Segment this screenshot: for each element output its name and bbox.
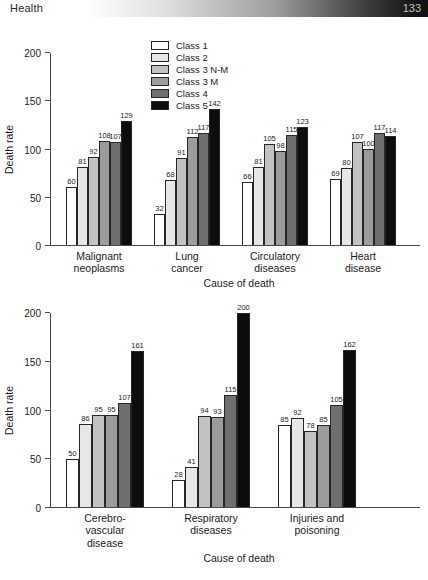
bar-column: 92 <box>88 53 99 245</box>
bar-value-label: 94 <box>200 406 208 416</box>
legend-item: Class 3 M <box>151 75 228 87</box>
chart-body: Death rate 050100150200 50869595107161Ce… <box>0 313 428 508</box>
y-tick-label: 150 <box>24 356 41 367</box>
bar-class-4 <box>118 403 131 507</box>
legend-label: Class 3 N-M <box>176 64 228 75</box>
bar-value-label: 93 <box>213 407 221 417</box>
bar-column: 95 <box>105 313 118 507</box>
legend-swatch <box>151 89 169 98</box>
bar-chart-bottom: Death rate 050100150200 50869595107161Ce… <box>0 313 428 564</box>
bar-column: 107 <box>110 53 121 245</box>
bar-column: 129 <box>121 53 132 245</box>
y-tick-label: 150 <box>24 96 41 107</box>
bar-class-3-m <box>317 425 330 507</box>
x-axis-title: Cause of death <box>0 277 428 289</box>
legend-item: Class 3 N-M <box>151 63 228 75</box>
bar-value-label: 115 <box>225 385 237 395</box>
legend: Class 1Class 2Class 3 N-MClass 3 MClass … <box>151 39 228 111</box>
bar-column: 117 <box>374 53 385 245</box>
header-gradient-bar <box>85 0 428 17</box>
category-label: Injuries and poisoning <box>262 512 372 537</box>
bar-class-4 <box>224 395 237 507</box>
legend-item: Class 4 <box>151 87 228 99</box>
plot-area: 50869595107161Cerebro- vascular disease2… <box>50 313 420 508</box>
bar-class-5 <box>343 350 356 507</box>
bar-column: 85 <box>317 313 330 507</box>
bar-class-1 <box>330 179 341 245</box>
bar-column: 86 <box>79 313 92 507</box>
bar-class-3-m <box>363 149 374 245</box>
bar-column: 108 <box>99 53 110 245</box>
bar-value-label: 114 <box>385 126 397 136</box>
bar-class-3-m <box>275 151 286 245</box>
y-axis-title: Death rate <box>0 313 18 508</box>
bar-value-label: 69 <box>331 169 339 179</box>
bar-class-3-n-m <box>176 158 187 245</box>
bar-column: 81 <box>253 53 264 245</box>
bar-class-3-n-m <box>352 142 363 245</box>
bar-value-label: 95 <box>107 405 115 415</box>
legend-item: Class 1 <box>151 39 228 51</box>
bar-column: 78 <box>304 313 317 507</box>
bar-class-2 <box>165 180 176 245</box>
bar-column: 80 <box>341 53 352 245</box>
bar-value-label: 92 <box>89 147 97 157</box>
bar-column: 81 <box>77 53 88 245</box>
y-tick-label: 200 <box>24 308 41 319</box>
bar-column: 41 <box>185 313 198 507</box>
legend-label: Class 4 <box>176 88 208 99</box>
bar-class-5 <box>237 313 250 507</box>
bar-value-label: 91 <box>177 148 185 158</box>
bar-value-label: 41 <box>187 457 195 467</box>
bar-value-label: 81 <box>254 157 262 167</box>
bar-column: 105 <box>264 53 275 245</box>
bar-class-2 <box>341 168 352 245</box>
bar-column: 123 <box>297 53 308 245</box>
bar-value-label: 66 <box>243 172 251 182</box>
bar-value-label: 100 <box>362 139 375 149</box>
bar-value-label: 117 <box>198 123 210 133</box>
bar-class-3-m <box>187 137 198 245</box>
bar-chart-top: Death rate 050100150200 Class 1Class 2Cl… <box>0 53 428 289</box>
bar-group: 6980107100117114Heart disease <box>330 53 396 245</box>
bar-column: 107 <box>352 53 363 245</box>
bar-class-1 <box>154 214 165 245</box>
bar-value-label: 129 <box>120 111 133 121</box>
legend-label: Class 3 M <box>176 76 218 87</box>
bar-value-label: 200 <box>237 303 250 313</box>
bar-value-label: 105 <box>330 395 343 405</box>
bar-value-label: 78 <box>306 421 314 431</box>
legend-label: Class 1 <box>176 40 208 51</box>
legend-item: Class 2 <box>151 51 228 63</box>
bar-value-label: 80 <box>342 158 350 168</box>
bar-value-label: 162 <box>343 340 356 350</box>
bar-class-2 <box>77 167 88 245</box>
legend-item: Class 5 <box>151 99 228 111</box>
bar-class-5 <box>131 351 144 507</box>
bar-class-1 <box>242 182 253 245</box>
category-label: Cerebro- vascular disease <box>50 512 160 549</box>
bar-value-label: 32 <box>155 204 163 214</box>
legend-swatch <box>151 77 169 86</box>
bar-column: 200 <box>237 313 250 507</box>
bar-value-label: 98 <box>276 141 284 151</box>
y-tick-label: 50 <box>30 454 41 465</box>
category-label: Respiratory diseases <box>156 512 266 537</box>
bar-column: 66 <box>242 53 253 245</box>
category-label: Heart disease <box>308 250 418 275</box>
bar-class-1 <box>66 459 79 508</box>
bar-class-2 <box>291 418 304 507</box>
bar-column: 114 <box>385 53 396 245</box>
bar-value-label: 92 <box>293 408 301 418</box>
bar-group: 85927885105162Injuries and poisoning <box>278 313 356 507</box>
bar-group: 50869595107161Cerebro- vascular disease <box>66 313 144 507</box>
bar-class-3-n-m <box>198 416 211 507</box>
page-header-title: Health <box>10 2 43 14</box>
bar-value-label: 85 <box>280 415 288 425</box>
bar-column: 93 <box>211 313 224 507</box>
legend-label: Class 5 <box>176 100 208 111</box>
bar-class-3-m <box>99 141 110 245</box>
bar-class-5 <box>209 109 220 245</box>
bar-value-label: 68 <box>166 170 174 180</box>
bar-value-label: 85 <box>319 415 327 425</box>
